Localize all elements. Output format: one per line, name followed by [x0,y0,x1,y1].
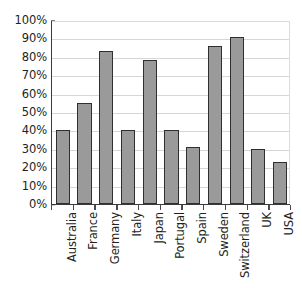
x-axis-label: Japan [154,212,166,244]
bar [99,51,113,204]
bar [77,103,91,204]
bar [56,130,70,204]
x-tick-mark [268,205,269,210]
x-tick-mark [94,205,95,210]
y-tick-label: 30% [3,144,47,156]
y-tick-label: 20% [3,162,47,174]
x-axis-label: Portugal [175,212,187,259]
x-tick-mark [160,205,161,210]
x-axis-label: Spain [197,212,209,244]
bar-chart: 0%10%20%30%40%50%60%70%80%90%100% Austra… [0,0,302,288]
bar [164,130,178,204]
x-tick-mark [225,205,226,210]
y-tick-label: 60% [3,89,47,101]
x-axis-label: Switzerland [240,212,252,278]
y-tick-label: 80% [3,52,47,64]
y-tick-label: 0% [3,199,47,211]
x-tick-mark [116,205,117,210]
x-axis-label: USA [284,212,296,236]
y-tick-label: 90% [3,34,47,46]
y-axis-labels: 0%10%20%30%40%50%60%70%80%90%100% [0,21,47,205]
x-tick-mark [51,205,52,210]
x-tick-mark [138,205,139,210]
bar [208,46,222,204]
x-axis-label: UK [262,212,274,228]
x-tick-mark [181,205,182,210]
y-tick-label: 50% [3,107,47,119]
bar [273,162,287,204]
bar [251,149,265,204]
bars-layer [52,21,290,204]
bar [121,130,135,204]
x-tick-mark [247,205,248,210]
x-axis-label: France [88,212,100,250]
plot-area [51,21,290,205]
y-tick-label: 70% [3,70,47,82]
y-tick-label: 100% [3,15,47,27]
bar [143,60,157,204]
y-tick-label: 10% [3,181,47,193]
x-axis-label: Sweden [219,212,231,257]
x-axis-label: Italy [132,212,144,236]
x-tick-mark [73,205,74,210]
x-tick-mark [203,205,204,210]
x-tick-mark [290,205,291,210]
bar [230,37,244,204]
x-axis-label: Australia [67,212,79,262]
y-tick-label: 40% [3,126,47,138]
bar [186,147,200,204]
x-axis-label: Germany [110,212,122,264]
